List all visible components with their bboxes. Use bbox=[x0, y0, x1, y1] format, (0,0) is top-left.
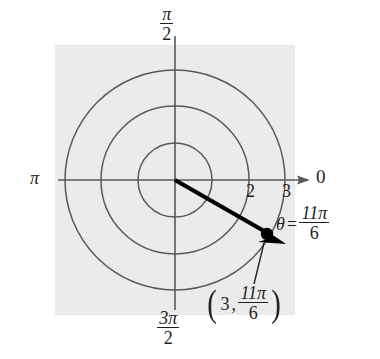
theta-value-numerator: 11π bbox=[299, 204, 329, 224]
polar-plot-figure: π 2 3π 2 π 0 2 3 θ = 11π 6 ( 3 , 11π 6 ) bbox=[0, 0, 380, 359]
point-close-paren: ) bbox=[272, 293, 282, 316]
axis-label-3pi-over-2: 3π 2 bbox=[157, 310, 179, 348]
theta-annotation: θ = 11π 6 bbox=[276, 205, 329, 243]
axis-label-pi: π bbox=[30, 169, 39, 187]
point-comma: , bbox=[232, 295, 237, 313]
axis-label-zero: 0 bbox=[316, 167, 326, 186]
plotted-point-marker bbox=[261, 228, 273, 240]
axis-label-pi-over-2-denominator: 2 bbox=[160, 24, 173, 43]
point-open-paren: ( bbox=[207, 293, 217, 316]
axis-label-3pi-over-2-denominator: 2 bbox=[157, 328, 179, 347]
point-angle-numerator: 11π bbox=[238, 284, 268, 304]
axis-label-pi-over-2-numerator: π bbox=[160, 5, 173, 25]
axis-label-3pi-over-2-numerator: 3π bbox=[157, 309, 179, 329]
axis-label-pi-over-2: π 2 bbox=[160, 6, 173, 44]
theta-value-denominator: 6 bbox=[299, 223, 329, 242]
theta-equals-sign: = bbox=[287, 215, 297, 233]
point-radius-value: 3 bbox=[220, 295, 229, 313]
radial-tick-label-2: 2 bbox=[246, 182, 255, 200]
point-coordinate-annotation: ( 3 , 11π 6 ) bbox=[206, 285, 283, 323]
theta-symbol: θ bbox=[276, 215, 285, 233]
radial-tick-label-3: 3 bbox=[282, 182, 291, 200]
point-angle-denominator: 6 bbox=[238, 303, 268, 322]
